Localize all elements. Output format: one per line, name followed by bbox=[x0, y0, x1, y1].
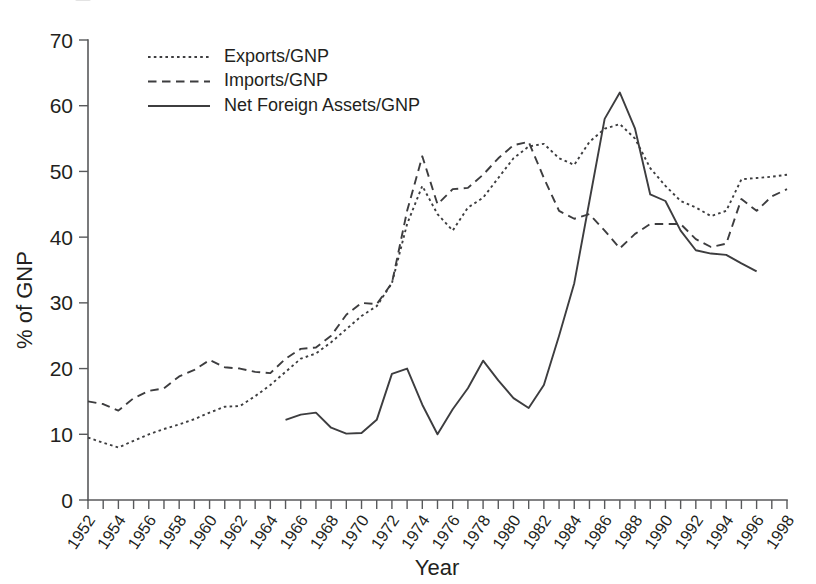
x-tick-label: 1984 bbox=[549, 512, 584, 553]
line-chart: 010203040506070 195219541956195819601962… bbox=[0, 0, 816, 584]
x-axis-tick-labels: 1952195419561958196019621964196619681970… bbox=[63, 512, 797, 553]
x-tick-label: 1990 bbox=[640, 512, 675, 553]
chart-legend: Exports/GNPImports/GNPNet Foreign Assets… bbox=[148, 46, 420, 115]
legend-label-1: Exports/GNP bbox=[224, 46, 329, 66]
x-tick-label: 1970 bbox=[337, 512, 372, 553]
x-tick-label: 1976 bbox=[428, 512, 463, 553]
x-tick-label: 1988 bbox=[610, 512, 645, 553]
x-axis-title: Year bbox=[415, 555, 459, 580]
x-tick-label: 1952 bbox=[63, 512, 98, 553]
x-tick-label: 1980 bbox=[489, 512, 524, 553]
x-tick-label: 1994 bbox=[701, 512, 736, 553]
x-tick-label: 1960 bbox=[185, 512, 220, 553]
y-axis-ticks bbox=[79, 40, 88, 500]
series-line-1 bbox=[88, 124, 787, 447]
scan-artifact bbox=[75, 0, 91, 1]
y-tick-label: 60 bbox=[50, 94, 73, 117]
y-tick-label: 40 bbox=[50, 226, 73, 249]
x-tick-label: 1954 bbox=[93, 512, 128, 553]
x-tick-label: 1982 bbox=[519, 512, 554, 553]
y-tick-label: 70 bbox=[50, 29, 73, 52]
axes-group bbox=[88, 40, 787, 500]
x-tick-label: 1978 bbox=[458, 512, 493, 553]
series-line-2 bbox=[88, 142, 787, 411]
x-tick-label: 1966 bbox=[276, 512, 311, 553]
series-layer bbox=[88, 93, 787, 448]
legend-label-3: Net Foreign Assets/GNP bbox=[224, 95, 420, 115]
x-tick-label: 1962 bbox=[215, 512, 250, 553]
chart-figure: 010203040506070 195219541956195819601962… bbox=[0, 0, 816, 584]
x-tick-label: 1996 bbox=[732, 512, 767, 553]
legend-label-2: Imports/GNP bbox=[224, 70, 328, 90]
x-tick-label: 1964 bbox=[245, 512, 280, 553]
y-tick-label: 10 bbox=[50, 423, 73, 446]
x-tick-label: 1998 bbox=[762, 512, 797, 553]
y-axis-title: % of GNP bbox=[12, 251, 37, 349]
x-tick-label: 1968 bbox=[306, 512, 341, 553]
x-axis-ticks bbox=[88, 500, 787, 509]
x-tick-label: 1972 bbox=[367, 512, 402, 553]
x-tick-label: 1958 bbox=[154, 512, 189, 553]
y-tick-label: 20 bbox=[50, 357, 73, 380]
y-tick-label: 30 bbox=[50, 291, 73, 314]
x-tick-label: 1992 bbox=[671, 512, 706, 553]
y-tick-label: 0 bbox=[61, 489, 73, 512]
x-tick-label: 1986 bbox=[580, 512, 615, 553]
x-tick-label: 1956 bbox=[124, 512, 159, 553]
x-tick-label: 1974 bbox=[397, 512, 432, 553]
y-tick-label: 50 bbox=[50, 160, 73, 183]
y-axis-tick-labels: 010203040506070 bbox=[50, 29, 73, 512]
